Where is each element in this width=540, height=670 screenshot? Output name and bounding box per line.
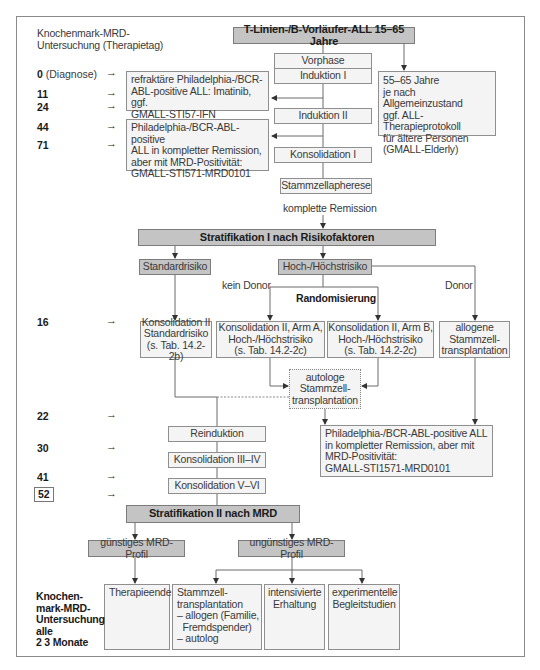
- day-30: 30: [37, 442, 49, 454]
- konsolidation5-6-box: Konsolidation V–VI: [168, 478, 266, 494]
- konsolidation3-4-box: Konsolidation III–IV: [168, 452, 266, 468]
- intensivierte-box: intensivierte Erhaltung: [264, 584, 325, 650]
- refractory-box: refraktäre Philadelphia-/BCR- ABL-positi…: [126, 71, 269, 111]
- day-44: 44: [37, 121, 49, 133]
- arrow-right-icon: →: [106, 314, 117, 326]
- stratification1-band: Stratifikation I nach Risikofaktoren: [138, 229, 436, 246]
- day-71: 71: [37, 139, 49, 151]
- induktion1-box: Induktion I: [274, 68, 372, 84]
- kein-donor-label: kein Donor: [222, 279, 271, 291]
- vorphase-box: Vorphase: [274, 53, 372, 69]
- day-11: 11: [37, 88, 48, 100]
- stammzell-box: Stammzell- transplantation – allogen (Fa…: [172, 584, 262, 650]
- allogene-sct-box: allogene Stammzell- transplantation: [439, 321, 510, 358]
- randomisierung-label: Randomisierung: [296, 292, 376, 304]
- therapieende-box: Therapieende: [104, 584, 170, 650]
- induktion2-box: Induktion II: [274, 108, 372, 124]
- main-title-box: T-Linien-/B-Vorläufer-ALL 15–65 Jahre: [233, 27, 415, 44]
- arrow-right-icon: →: [106, 86, 117, 98]
- day-24: 24: [37, 101, 49, 113]
- arrow-right-icon: →: [106, 99, 117, 111]
- arrow-right-icon: →: [106, 408, 117, 420]
- arrow-right-icon: →: [106, 66, 117, 78]
- kons2-armB-box: Konsolidation II, Arm B, Hoch-/Höchstris…: [327, 321, 434, 358]
- arrow-right-icon: →: [106, 137, 117, 149]
- komplette-remission-label: komplette Remission: [283, 202, 377, 214]
- arrow-right-icon: →: [106, 440, 117, 452]
- favorable-mrd-box: günstiges MRD-Profil: [88, 540, 185, 557]
- day-41: 41: [37, 471, 49, 483]
- kons2-armA-box: Konsolidation II, Arm A, Hoch-/Höchstris…: [216, 321, 325, 358]
- reinduktion-box: Reinduktion: [168, 426, 266, 442]
- kons2-std-box: Konsolidation II Standardrisiko (s. Tab.…: [140, 321, 212, 358]
- mrd-positive-left-box: Philadelphia-/BCR-ABL-positive ALL in ko…: [126, 119, 269, 171]
- high-risk-box: Hoch-/Höchstrisiko: [278, 259, 372, 275]
- experimentelle-box: experimentelle Begleitstudien: [328, 584, 400, 650]
- arrow-right-icon: →: [106, 119, 117, 131]
- day-52-boxed: 52: [34, 487, 54, 502]
- arrow-right-icon: →: [106, 487, 117, 499]
- stratification2-band: Stratifikation II nach MRD: [126, 505, 300, 523]
- mrd-timeline-title: Knochenmark-MRD- Untersuchung (Therapiet…: [37, 27, 163, 51]
- day-0: 0 (Diagnose): [37, 68, 97, 80]
- mrd-positive-right-box: Philadelphia-/BCR-ABL-positive ALL in ko…: [320, 425, 493, 477]
- elderly-box: 55–65 Jahre je nach Allgemeinzustand ggf…: [378, 71, 496, 136]
- konsolidation1-box: Konsolidation I: [274, 147, 372, 163]
- unfavorable-mrd-box: ungünstiges MRD-Profil: [238, 540, 345, 557]
- day-16: 16: [37, 316, 49, 328]
- day-22: 22: [37, 410, 49, 422]
- standard-risk-box: Standardrisiko: [139, 259, 211, 275]
- arrow-right-icon: →: [106, 469, 117, 481]
- stammzell-text: Stammzell- transplantation – allogen (Fa…: [177, 587, 257, 645]
- donor-label: Donor: [445, 279, 473, 291]
- autologe-sct-box: autologe Stammzell- transplantation: [289, 369, 361, 409]
- footer-note: Knochen- mark-MRD- Untersuchung alle 2 3…: [36, 591, 105, 649]
- stammzellapherese-box: Stammzellapherese: [280, 178, 372, 194]
